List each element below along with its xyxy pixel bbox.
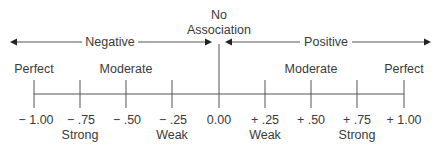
tick-label: + .50 <box>297 113 325 127</box>
positive-label: Positive <box>304 35 348 49</box>
tick-sublabel-strong-positive: Strong <box>339 128 376 142</box>
tick-sublabel-strong-negative: Strong <box>62 128 99 142</box>
no-association-title-bottom: Association <box>187 23 251 37</box>
strength-label-perfect-positive: Perfect <box>384 62 424 76</box>
tick-sublabel-weak-positive: Weak <box>249 128 281 142</box>
tick-label: − 1.00 <box>18 113 53 127</box>
strength-label-moderate-negative: Moderate <box>100 62 153 76</box>
tick-label: − .75 <box>67 113 95 127</box>
arrow-left-icon <box>10 39 17 46</box>
no-association-title-top: No <box>211 8 227 22</box>
tick-sublabel-weak-negative: Weak <box>156 128 188 142</box>
negative-label: Negative <box>85 35 134 49</box>
correlation-scale-diagram: No Association Negative Positive Perfect… <box>0 0 439 148</box>
arrow-right-icon <box>424 39 431 46</box>
tick-label: − .25 <box>159 113 187 127</box>
strength-label-moderate-positive: Moderate <box>285 62 338 76</box>
arrow-left-icon <box>225 39 232 46</box>
strength-label-perfect-negative: Perfect <box>14 62 54 76</box>
tick-label: + 1.00 <box>386 113 421 127</box>
tick-label: + .75 <box>343 113 371 127</box>
arrow-right-icon <box>205 39 212 46</box>
tick-label: 0.00 <box>207 113 231 127</box>
tick-label: − .50 <box>113 113 141 127</box>
tick-label: + .25 <box>251 113 279 127</box>
